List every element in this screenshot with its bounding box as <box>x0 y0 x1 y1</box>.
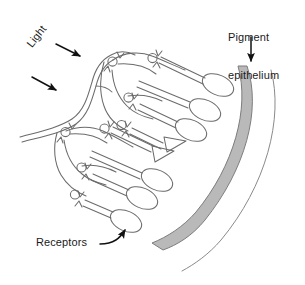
rod-outer-segment <box>186 94 224 126</box>
neuron-nucleus <box>77 163 86 172</box>
rod-outer-segment <box>123 182 161 214</box>
light-arrow-2 <box>32 77 56 90</box>
retina-diagram-figure: Pigment epithelium Light Receptors <box>0 0 305 285</box>
neural-module-upper <box>96 50 237 152</box>
neuron-nucleus <box>124 93 133 102</box>
receptors-arrow <box>100 230 125 244</box>
pigment-epithelium-label-line2: epithelium <box>228 69 279 82</box>
pigment-epithelium-label: Pigment epithelium <box>228 6 279 106</box>
neural-module-lower <box>55 121 176 237</box>
rod-outer-segment <box>138 164 176 196</box>
pigment-epithelium-label-line1: Pigment <box>228 31 279 44</box>
neuron-nucleus <box>108 57 117 66</box>
neuron-nucleus <box>61 127 70 136</box>
receptor-cell-group-upper <box>130 57 237 152</box>
rod-outer-segment <box>172 114 210 146</box>
receptors-label: Receptors <box>36 236 87 249</box>
cone-outer-segment <box>152 146 174 162</box>
light-arrow-1 <box>56 44 80 56</box>
inner-retinal-surface-double-line <box>20 52 135 142</box>
rod-outer-segment <box>107 205 145 237</box>
